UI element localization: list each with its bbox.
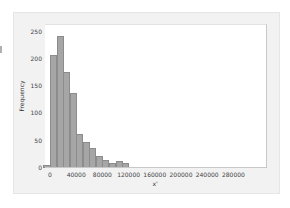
plot-area: [45, 24, 267, 168]
y-tick-label: 200: [22, 54, 42, 61]
y-tick-label: 250: [22, 27, 42, 34]
x-tick-label: 120000: [117, 171, 140, 178]
x-tick-label: 160000: [143, 171, 166, 178]
x-tick-label: 240000: [196, 171, 219, 178]
y-tick-label: 150: [22, 82, 42, 89]
edge-mark: [0, 46, 2, 53]
x-axis-line: [45, 167, 267, 168]
x-tick-label: 280000: [222, 171, 245, 178]
y-axis-label: Frequency: [18, 81, 25, 112]
x-tick-label: 0: [48, 171, 52, 178]
x-axis-label: x': [152, 180, 157, 187]
y-tick-label: 50: [22, 136, 42, 143]
x-tick-label: 40000: [67, 171, 86, 178]
x-tick-label: 200000: [170, 171, 193, 178]
y-tick-label: 0: [22, 164, 42, 171]
y-tick-label: 100: [22, 109, 42, 116]
x-tick-label: 80000: [93, 171, 112, 178]
